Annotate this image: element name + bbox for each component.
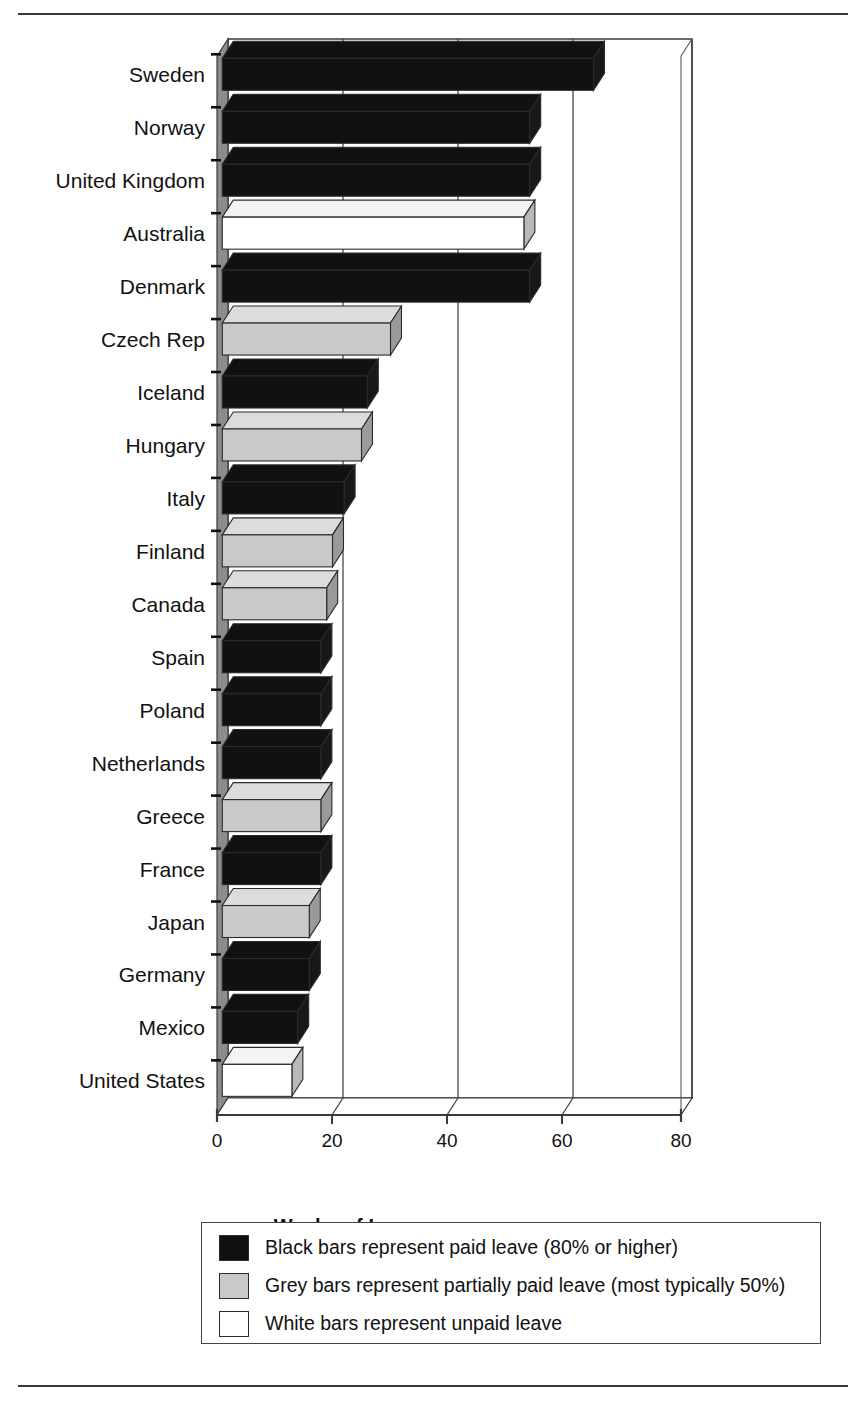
legend-item-black: Black bars represent paid leave (80% or … [219, 1231, 678, 1265]
bar-poland [222, 677, 332, 726]
legend-swatch-white-icon [219, 1311, 249, 1337]
bar-netherlands [222, 730, 332, 779]
legend-swatch-black-icon [219, 1235, 249, 1261]
category-label-poland: Poland [15, 700, 205, 721]
category-label-finland: Finland [15, 541, 205, 562]
category-label-sweden: Sweden [15, 64, 205, 85]
bar-sweden [222, 41, 604, 90]
category-label-denmark: Denmark [15, 276, 205, 297]
bar-united-states [222, 1047, 303, 1096]
bar-italy [222, 465, 355, 514]
x-tick-label-80: 80 [651, 1130, 711, 1152]
x-tick-label-60: 60 [532, 1130, 592, 1152]
x-tick-label-40: 40 [417, 1130, 477, 1152]
bottom-horizontal-rule [18, 1385, 848, 1387]
bar-united-kingdom [222, 147, 540, 196]
category-label-united-states: United States [15, 1070, 205, 1091]
legend-item-white: White bars represent unpaid leave [219, 1307, 562, 1341]
category-label-france: France [15, 859, 205, 880]
category-label-mexico: Mexico [15, 1017, 205, 1038]
bar-denmark [222, 253, 540, 302]
category-label-australia: Australia [15, 223, 205, 244]
category-label-united-kingdom: United Kingdom [15, 170, 205, 191]
category-label-iceland: Iceland [15, 382, 205, 403]
bar-germany [222, 941, 320, 990]
category-label-japan: Japan [15, 912, 205, 933]
category-label-czech-rep: Czech Rep [15, 329, 205, 350]
legend-label-white: White bars represent unpaid leave [265, 1314, 562, 1334]
category-label-italy: Italy [15, 488, 205, 509]
bar-czech-rep [222, 306, 401, 355]
x-tick-label-0: 0 [187, 1130, 247, 1152]
category-label-netherlands: Netherlands [15, 753, 205, 774]
category-label-germany: Germany [15, 964, 205, 985]
legend-swatch-grey-icon [219, 1273, 249, 1299]
category-label-spain: Spain [15, 647, 205, 668]
bar-chart: SwedenNorwayUnited KingdomAustraliaDenma… [0, 30, 866, 1140]
bar-mexico [222, 994, 308, 1043]
bar-australia [222, 200, 535, 249]
category-label-norway: Norway [15, 117, 205, 138]
bar-greece [222, 783, 332, 832]
category-label-canada: Canada [15, 594, 205, 615]
x-tick-label-20: 20 [302, 1130, 362, 1152]
bar-norway [222, 94, 540, 143]
bar-hungary [222, 412, 372, 461]
legend-label-grey: Grey bars represent partially paid leave… [265, 1276, 785, 1296]
bar-spain [222, 624, 332, 673]
legend: Black bars represent paid leave (80% or … [201, 1222, 821, 1344]
legend-item-grey: Grey bars represent partially paid leave… [219, 1269, 785, 1303]
bar-canada [222, 571, 337, 620]
legend-label-black: Black bars represent paid leave (80% or … [265, 1238, 678, 1258]
top-horizontal-rule [18, 13, 848, 15]
bar-iceland [222, 359, 378, 408]
bar-france [222, 836, 332, 885]
category-label-hungary: Hungary [15, 435, 205, 456]
bar-finland [222, 518, 343, 567]
category-label-greece: Greece [15, 806, 205, 827]
bar-japan [222, 889, 320, 938]
